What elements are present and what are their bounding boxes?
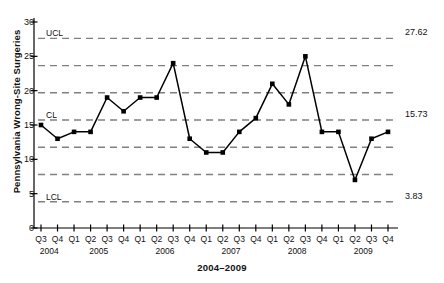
axes [31,18,399,232]
data-point-marker [39,123,44,128]
data-point-marker [55,136,60,141]
data-point-marker [270,82,275,87]
data-point-marker [154,95,159,100]
data-point-marker [369,136,374,141]
data-point-marker [121,109,126,114]
data-point-marker [204,150,209,155]
control-limit-lines [38,38,394,201]
data-point-marker [220,150,225,155]
control-chart: Pennsylvania Wrong-Site Surgeries 2004–2… [0,0,444,283]
data-point-marker [105,95,110,100]
data-point-marker [72,130,77,135]
data-markers [39,54,391,182]
data-point-marker [320,130,325,135]
data-point-marker [187,136,192,141]
data-point-marker [303,54,308,59]
data-point-marker [237,130,242,135]
data-point-marker [254,116,259,121]
data-point-marker [88,130,93,135]
data-point-marker [171,61,176,66]
data-point-marker [386,130,391,135]
data-point-marker [336,130,341,135]
data-point-marker [287,102,292,107]
data-point-marker [353,178,358,183]
plot-area [0,0,444,283]
data-point-marker [138,95,143,100]
data-line [41,56,388,180]
